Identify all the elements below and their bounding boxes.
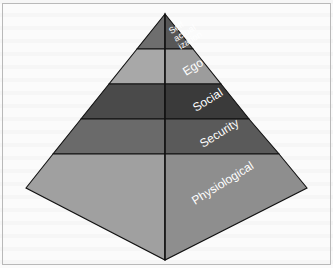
tier-3-left-face (81, 84, 165, 119)
pyramid-diagram: Self actual ization Ego Social Security … (0, 0, 333, 268)
pyramid-figure: Self actual ization Ego Social Security … (0, 0, 333, 268)
tier-4-left-face (53, 119, 165, 154)
tier-2-left-face (109, 49, 165, 84)
tier-1-left-face (137, 14, 165, 49)
pyramid-right-face (165, 14, 307, 260)
pyramid-left-face (26, 14, 165, 260)
tier-5-left-face (26, 154, 165, 260)
